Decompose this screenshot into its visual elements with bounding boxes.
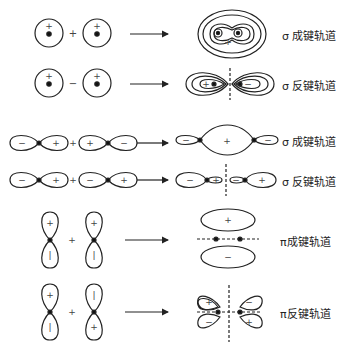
svg-text:−: −: [69, 78, 77, 89]
svg-text:+: +: [223, 136, 231, 146]
svg-text:−: −: [86, 175, 94, 185]
svg-text:+: +: [202, 79, 210, 89]
svg-text:+: +: [69, 175, 77, 185]
label-pi-antibonding: π反键轨道: [280, 305, 331, 321]
svg-text:+: +: [68, 235, 76, 245]
svg-text:−: −: [186, 175, 194, 185]
svg-text:|: |: [92, 290, 95, 300]
svg-text:−: −: [205, 317, 213, 327]
svg-text:−: −: [245, 297, 253, 307]
svg-text:−: −: [264, 135, 272, 145]
svg-text:+: +: [212, 175, 220, 185]
label-p-sigma-antibonding: σ 反键轨道: [282, 173, 336, 189]
row-p-sigma-bonding: [10, 125, 278, 155]
svg-text:+: +: [68, 307, 76, 317]
label-p-sigma-bonding: σ 成键轨道: [282, 133, 336, 149]
svg-text:−: −: [224, 252, 232, 262]
svg-text:+: +: [224, 215, 232, 225]
svg-text:+: +: [69, 28, 77, 39]
svg-text:+: +: [93, 21, 101, 31]
label-pi-bonding: π成键轨道: [280, 233, 331, 249]
svg-text:+: +: [245, 317, 253, 327]
svg-text:+: +: [90, 218, 98, 228]
svg-text:+: +: [224, 37, 232, 47]
svg-text:+: +: [86, 138, 94, 148]
svg-text:−: −: [18, 175, 26, 185]
svg-text:−: −: [182, 135, 190, 145]
svg-text:+: +: [45, 71, 53, 81]
svg-text:+: +: [90, 322, 98, 332]
label-s-sigma-antibonding: σ 反键轨道: [282, 77, 336, 93]
svg-text:+: +: [46, 290, 54, 300]
svg-text:+: +: [258, 175, 266, 185]
svg-text:+: +: [93, 71, 101, 81]
svg-text:+: +: [69, 138, 77, 148]
svg-text:−: −: [244, 79, 252, 89]
svg-text:|: |: [48, 322, 51, 332]
svg-text:−: −: [232, 175, 240, 185]
svg-text:|: |: [48, 250, 51, 260]
svg-text:+: +: [205, 297, 213, 307]
svg-text:+: +: [120, 175, 128, 185]
svg-text:+: +: [52, 138, 60, 148]
svg-text:|: |: [92, 250, 95, 260]
svg-text:−: −: [18, 138, 26, 148]
svg-text:+: +: [46, 218, 54, 228]
svg-text:+: +: [52, 175, 60, 185]
svg-text:−: −: [120, 138, 128, 148]
svg-text:+: +: [45, 21, 53, 31]
label-s-sigma-bonding: σ 成键轨道: [282, 27, 336, 43]
